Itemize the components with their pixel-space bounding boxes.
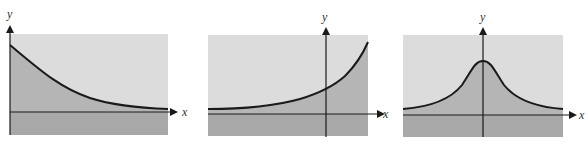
y-axis-label: y — [479, 10, 486, 24]
below-axis-region — [10, 112, 168, 135]
graph-decreasing-exponential: x y — [6, 7, 188, 135]
x-axis-label: x — [578, 108, 585, 122]
graph-increasing-exponential: x y — [208, 10, 389, 137]
x-axis-label: x — [382, 107, 389, 121]
y-axis-label: y — [321, 10, 328, 24]
y-axis-label: y — [6, 7, 13, 21]
graph-bell-curve: x y — [403, 10, 585, 137]
three-graphs-figure: x y x y x y — [0, 0, 588, 145]
below-axis-region — [208, 114, 368, 136]
x-axis-label: x — [181, 105, 188, 119]
